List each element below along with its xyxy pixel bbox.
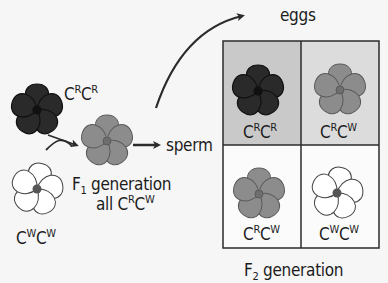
- red-parent-genotype: CRCR: [64, 86, 98, 103]
- sperm-label: sperm: [166, 137, 212, 154]
- punnett-cell-genotype: CRCW: [243, 226, 280, 243]
- punnett-cell-genotype: CRCW: [320, 124, 357, 141]
- white-parent-genotype: CWCW: [16, 230, 56, 247]
- punnett-cell-genotype: CWCW: [319, 226, 359, 243]
- punnett-cell-genotype: CRCR: [243, 124, 277, 141]
- f2-generation-label: F2 generation: [244, 262, 343, 282]
- f1-genotype-label: all CRCW: [96, 196, 154, 213]
- eggs-label: eggs: [280, 7, 316, 24]
- f1-pink-flower-icon: [79, 115, 136, 169]
- white-flower-icon: [9, 161, 65, 217]
- red-flower-icon: [9, 84, 66, 138]
